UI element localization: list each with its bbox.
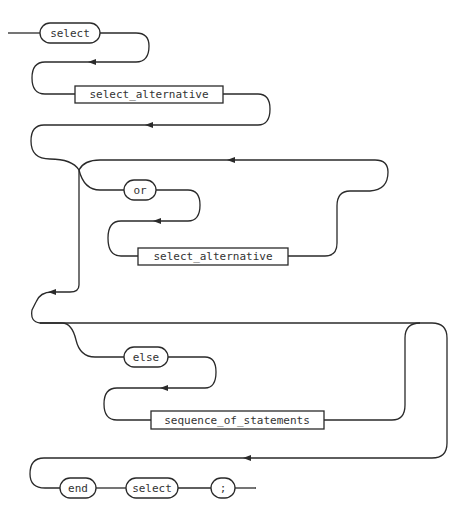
main-descent [32,170,79,323]
arrow-5 [48,289,56,295]
terminal-select-2-label: select [132,482,172,495]
arrow-4 [153,218,161,224]
terminal-end-label: end [68,482,88,495]
nonterminal-sequence-of-statements-label: sequence_of_statements [164,414,310,427]
terminal-or-label: or [133,184,147,197]
or-entry [79,170,124,190]
arrow-1 [88,59,96,65]
nonterminal-select-alternative-2-label: select_alternative [153,250,272,263]
arrow-3 [227,157,235,163]
connector-3 [108,190,200,256]
terminal-else-label: else [133,351,160,364]
else-entry [62,323,124,357]
terminal-semicolon-label: ; [220,482,227,495]
syntax-diagram: select select_alternative or select_alte… [0,0,463,515]
nonterminal-select-alternative-1-label: select_alternative [89,88,208,101]
seq-exit [324,323,420,420]
arrow-2 [145,122,153,128]
or-loop-top [79,160,388,256]
arrow-6 [160,385,168,391]
right-loop [30,323,447,488]
terminal-select-label: select [50,27,90,40]
arrow-7 [243,455,251,461]
